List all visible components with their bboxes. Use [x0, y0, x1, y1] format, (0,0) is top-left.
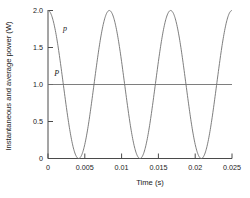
- x-tick-label: 0.015: [149, 163, 167, 172]
- y-tick-label: 2.0: [33, 6, 43, 15]
- instantaneous-power-label: p: [62, 24, 67, 33]
- y-tick-label: 1.0: [33, 80, 43, 89]
- x-tick-label: 0.01: [115, 163, 129, 172]
- y-tick-label: 0: [39, 154, 43, 163]
- x-tick-label: 0: [46, 163, 50, 172]
- y-tick-label: 0.5: [33, 117, 43, 126]
- x-tick-label: 0.005: [76, 163, 94, 172]
- x-tick-label: 0.025: [223, 163, 241, 172]
- y-tick-label: 1.5: [33, 43, 43, 52]
- average-power-label: P: [53, 69, 59, 78]
- x-tick-label: 0.02: [188, 163, 202, 172]
- power-chart: Instantaneous and average power (W) 2.0 …: [0, 0, 250, 198]
- x-axis-title: Time (s): [136, 178, 164, 187]
- figure: Instantaneous and average power (W) 2.0 …: [0, 0, 250, 198]
- y-axis-title: Instantaneous and average power (W): [4, 21, 13, 151]
